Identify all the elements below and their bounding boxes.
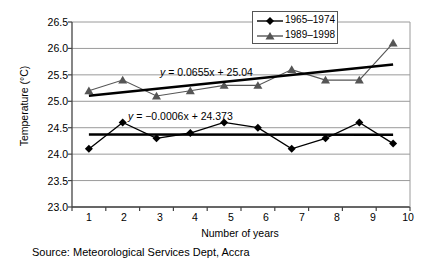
data-point-marker	[287, 65, 296, 73]
y-tick-label: 25.5	[34, 69, 68, 81]
lower-eq-expression: = −0.0006x + 24.373	[133, 110, 233, 122]
legend-label: 1965–1974	[285, 14, 335, 25]
x-tick-label: 6	[256, 211, 276, 223]
data-point-marker	[389, 39, 398, 47]
x-tick-label: 10	[398, 211, 418, 223]
data-point-marker	[389, 140, 397, 148]
triangle-marker-icon	[256, 29, 284, 43]
y-tick-label: 26.5	[34, 16, 68, 28]
data-point-marker	[254, 124, 262, 132]
legend-item-1989-1998: 1989–1998	[253, 29, 339, 43]
data-point-marker	[288, 145, 296, 153]
y-tick-label: 24.5	[34, 122, 68, 134]
x-tick-label: 9	[363, 211, 383, 223]
x-tick-label: 4	[185, 211, 205, 223]
chart-legend: 1965–1974 1989–1998	[252, 11, 338, 44]
diamond-marker-icon	[256, 14, 284, 28]
y-tick-label: 26.0	[34, 42, 68, 54]
x-tick-label: 5	[221, 211, 241, 223]
x-tick-label: 1	[79, 211, 99, 223]
x-tick-label: 3	[150, 211, 170, 223]
upper-eq-expression: = 0.0655x + 25.04	[165, 66, 253, 78]
temperature-trend-chart: 26.5 26.0 25.5 25.0 24.5 24.0 23.5 23.0 …	[0, 0, 440, 269]
data-point-marker	[355, 118, 363, 126]
x-tick-label: 8	[327, 211, 347, 223]
y-axis-title: Temperature (°C)	[18, 41, 30, 171]
y-tick-label: 24.0	[34, 148, 68, 160]
lower-trend-equation-label: y = −0.0006x + 24.373	[128, 110, 233, 122]
y-tick-label: 25.0	[34, 95, 68, 107]
upper-trend-equation-label: y = 0.0655x + 25.04	[160, 66, 253, 78]
legend-label: 1989–1998	[285, 29, 335, 40]
x-tick-label: 7	[292, 211, 312, 223]
y-tick-label: 23.5	[34, 175, 68, 187]
source-caption: Source: Meteorological Services Dept, Ac…	[32, 246, 250, 258]
x-axis-title: Number of years	[170, 227, 310, 239]
data-point-marker	[118, 76, 127, 84]
x-tick-label: 2	[114, 211, 134, 223]
legend-item-1965-1974: 1965–1974	[253, 14, 339, 28]
y-tick-label: 23.0	[34, 201, 68, 213]
